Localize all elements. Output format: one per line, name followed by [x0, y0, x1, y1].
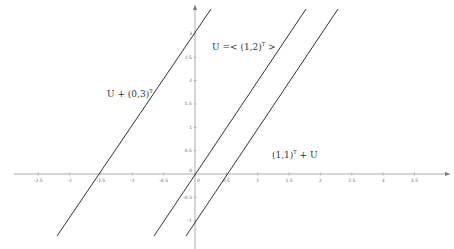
label-u-span: U =< (1,2)T >	[212, 41, 275, 52]
x-tick-label: 3	[382, 178, 385, 183]
x-tick-label: 1	[256, 178, 259, 183]
x-tick-label: 2	[319, 178, 322, 183]
x-tick-label: -1.5	[97, 178, 106, 183]
coordinate-plane: -2.5-2-1.5-1-0.500.511.522.533.5 32.521.…	[0, 0, 454, 249]
y-tick-labels: 32.521.510.50-0.5-1	[183, 31, 196, 223]
x-axis-arrow-icon	[445, 172, 450, 176]
label-text: U + (0,3)	[107, 89, 149, 99]
x-tick-label: -2	[67, 178, 72, 183]
x-tick-label: 1.5	[285, 178, 292, 183]
y-tick-label: 0.5	[185, 148, 192, 153]
x-tick-label: 2.5	[348, 178, 355, 183]
y-tick-label: 0	[189, 168, 192, 173]
y-tick-label: 1.5	[185, 101, 192, 106]
y-tick-label: -0.5	[183, 195, 192, 200]
x-tick-label: -2.5	[34, 178, 43, 183]
x-tick-label: 0	[197, 178, 200, 183]
label-text: U =< (1,2)	[212, 42, 262, 52]
y-tick-label: 1	[189, 125, 192, 130]
label-tail: >	[265, 42, 275, 52]
label-text: (1,1)	[272, 150, 293, 160]
y-tick-label: -1	[188, 218, 193, 223]
y-tick-label: 3	[189, 31, 192, 36]
y-tick-label: 2.5	[185, 55, 192, 60]
y-tick-label: 2	[189, 78, 192, 83]
y-axis-arrow-icon	[193, 5, 197, 10]
x-tick-label: 3.5	[411, 178, 418, 183]
label-11-plus-u: (1,1)T + U	[272, 149, 318, 160]
label-sup: T	[149, 88, 152, 94]
line-u-plus-03	[57, 9, 211, 236]
label-u-plus-03: U + (0,3)T	[107, 88, 153, 99]
x-tick-label: -0.5	[159, 178, 168, 183]
x-tick-label: -1	[130, 178, 135, 183]
label-tail: + U	[297, 150, 318, 160]
